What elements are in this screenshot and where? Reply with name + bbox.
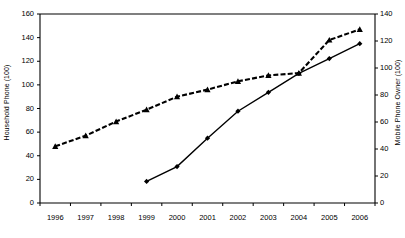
axis-lines: [40, 14, 375, 203]
series-line-1: [147, 44, 360, 182]
plot-area: [0, 0, 405, 238]
data-series-layer: [52, 26, 363, 184]
data-point-marker: [327, 56, 332, 61]
chart-figure: Household Phone (100) Mobile Phone Owner…: [0, 0, 405, 238]
data-point-marker: [144, 179, 149, 184]
data-point-marker: [357, 41, 362, 46]
